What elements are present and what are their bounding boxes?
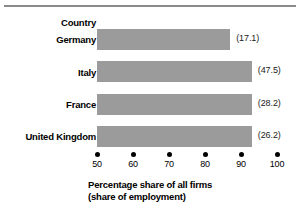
x-axis-tick-dot-icon — [167, 152, 172, 157]
x-axis-tick-dot-icon — [275, 152, 280, 157]
bar-value-united-kingdom: (26.2) — [258, 130, 281, 140]
x-axis-title: Percentage share of all firms (share of … — [88, 179, 298, 203]
x-axis-tick-label: 90 — [227, 159, 255, 169]
x-axis-tick-label: 60 — [119, 159, 147, 169]
x-axis-tick-label: 100 — [263, 159, 291, 169]
x-axis-tick-label: 50 — [83, 159, 111, 169]
x-axis-tick-dot-icon — [131, 152, 136, 157]
bar-germany — [97, 29, 230, 50]
x-axis-tick-label: 80 — [191, 159, 219, 169]
x-axis: 5060708090100 — [97, 152, 279, 174]
category-label-united-kingdom: United Kingdom — [0, 131, 96, 142]
x-axis-title-line1: Percentage share of all firms — [88, 179, 298, 191]
bar-chart: Country Germany Italy France United King… — [0, 0, 300, 214]
x-axis-title-line2: (share of employment) — [88, 191, 298, 203]
category-label-italy: Italy — [0, 67, 96, 78]
bar-value-france: (28.2) — [258, 98, 281, 108]
x-axis-tick-dot-icon — [203, 152, 208, 157]
x-axis-tick-dot-icon — [95, 152, 100, 157]
x-axis-tick-dot-icon — [239, 152, 244, 157]
bar-value-germany: (17.1) — [236, 33, 259, 43]
category-label-germany: Germany — [0, 34, 96, 45]
bar-value-italy: (47.5) — [258, 65, 281, 75]
bar-united-kingdom — [97, 126, 252, 147]
top-divider-rule — [4, 5, 296, 7]
bar-italy — [97, 61, 252, 82]
bar-france — [97, 94, 252, 115]
x-axis-tick-label: 70 — [155, 159, 183, 169]
plot-area: (17.1) (47.5) (28.2) (26.2) — [97, 29, 277, 151]
category-label-france: France — [0, 99, 96, 110]
category-column-header: Country — [0, 17, 96, 28]
